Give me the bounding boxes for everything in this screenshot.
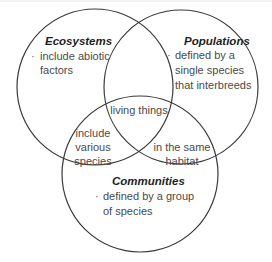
ecosystems-line: factors xyxy=(40,64,74,76)
ecosystems-bullet: · xyxy=(31,50,35,62)
pop-comm-line: in the same xyxy=(154,141,211,153)
communities-bullet: · xyxy=(95,190,99,202)
eco-comm-line: species xyxy=(74,155,112,167)
populations-bullet: · xyxy=(167,49,171,61)
communities-circle xyxy=(62,96,218,252)
populations-line: defined by a xyxy=(175,49,236,61)
all-three-label: living things xyxy=(110,104,168,116)
pop-comm-line: habitat xyxy=(165,155,198,167)
communities-title: Communities xyxy=(112,175,185,187)
venn-diagram: Ecosystems · include abiotic factors Pop… xyxy=(0,0,272,262)
ecosystems-line: include abiotic xyxy=(40,50,110,62)
eco-comm-line: various xyxy=(75,141,111,153)
populations-title: Populations xyxy=(184,35,250,47)
populations-line: that interbreeds xyxy=(175,79,252,91)
ecosystems-title: Ecosystems xyxy=(45,35,112,47)
communities-line: defined by a group xyxy=(103,190,194,202)
eco-comm-line: include xyxy=(76,127,111,139)
populations-line: single species xyxy=(175,64,245,76)
communities-line: of species xyxy=(103,205,153,217)
